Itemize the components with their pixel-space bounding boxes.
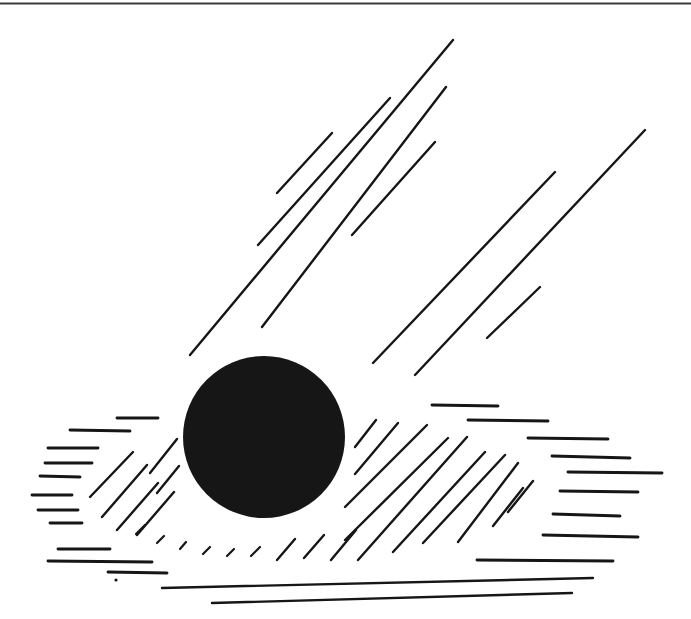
right-dash-line (560, 491, 638, 492)
small-dot (114, 578, 117, 581)
ray-line (190, 40, 453, 355)
left-hatch-layer (90, 439, 179, 535)
dotted-arc-tick (227, 549, 234, 556)
right-hatch-line (355, 423, 398, 474)
left-hatch-line (150, 439, 177, 473)
right-dash-line (552, 456, 630, 458)
left-dash-line (108, 572, 167, 573)
left-dash-line (40, 476, 80, 477)
right-hatch-line (355, 420, 376, 447)
illustration-canvas (0, 0, 691, 619)
dotted-arc-tick (251, 547, 260, 556)
upper-dash-line (432, 405, 498, 406)
right-dash-line (528, 438, 608, 439)
sun-circle (183, 356, 345, 518)
right-hatch-line (423, 455, 505, 543)
ray-lines-layer (190, 40, 645, 375)
ray-line (262, 87, 446, 327)
right-hatch-line (508, 481, 533, 512)
bottom-long-line (162, 578, 593, 588)
ray-line (415, 130, 645, 375)
right-hatch-line (304, 535, 324, 558)
bottom-dash-line (477, 560, 613, 561)
bottom-lines-layer (162, 578, 593, 603)
right-dash-line (568, 472, 662, 473)
ray-line (487, 287, 540, 338)
upper-dash-line (468, 420, 548, 421)
ray-line (373, 172, 555, 363)
illustration-page (0, 0, 691, 619)
dotted-arc-tick (180, 542, 186, 549)
ray-line (258, 98, 390, 245)
right-hatch-line (277, 539, 295, 560)
left-hatch-line (117, 483, 158, 530)
ray-line (277, 133, 332, 193)
bottom-long-line (212, 593, 572, 603)
left-hatch-line (157, 466, 179, 493)
dotted-arc-tick (203, 547, 210, 554)
sun-circle-layer (183, 356, 345, 518)
right-dash-line (553, 514, 620, 516)
right-hatch-line (331, 530, 356, 560)
dotted-arc-tick (157, 536, 164, 543)
left-hatch-line (102, 465, 147, 517)
left-dash-line (70, 430, 130, 431)
right-dash-line (543, 535, 638, 537)
left-dash-line (48, 561, 152, 562)
right-hatch-line (358, 437, 467, 560)
right-hatch-line (493, 488, 523, 526)
right-hatch-line (345, 438, 448, 540)
